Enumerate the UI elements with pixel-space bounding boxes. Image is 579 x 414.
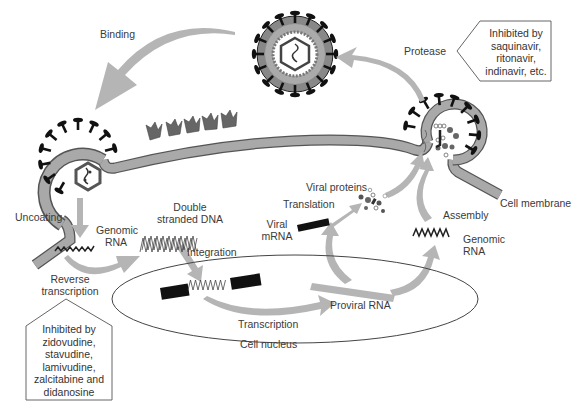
label-genomic-rna-left: Genomic RNA (96, 224, 136, 248)
viral-mrna (297, 218, 330, 232)
label-protease: Protease (404, 45, 446, 57)
label-viral-proteins: Viral proteins (306, 181, 367, 193)
label-cell-membrane: Cell membrane (500, 197, 571, 209)
label-binding: Binding (100, 28, 135, 40)
label-double-stranded-dna: Double stranded DNA (150, 201, 230, 225)
viral-capsid (76, 163, 100, 190)
label-viral-mrna: Viral mRNA (259, 218, 295, 242)
label-proviral-rna: Proviral RNA (330, 299, 391, 311)
cd4-receptors (146, 110, 237, 140)
label-reverse-transcription: Reverse transcription (30, 273, 110, 297)
protease-inhibitors-callout: Inhibited by saquinavir, ritonavir, indi… (480, 27, 552, 77)
label-cell-nucleus: Cell nucleus (240, 338, 297, 350)
label-integration: Integration (187, 246, 237, 258)
rt-inhibitors-callout: Inhibited by zidovudine, stavudine, lami… (26, 323, 112, 398)
integrated-provirus (160, 273, 262, 300)
label-transcription: Transcription (238, 318, 298, 330)
label-assembly: Assembly (443, 209, 489, 221)
genomic-rna-right (413, 229, 449, 237)
label-genomic-rna-right: Genomic RNA (463, 233, 505, 257)
label-uncoating: Uncoating (15, 211, 62, 223)
label-translation: Translation (283, 198, 335, 210)
free-virion (252, 11, 338, 97)
